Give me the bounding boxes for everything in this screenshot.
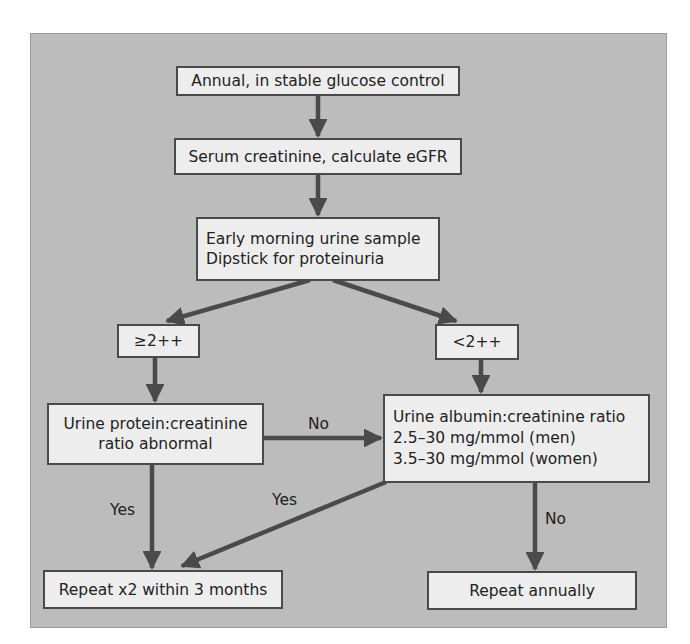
node-text: ratio abnormal (98, 434, 212, 454)
node-text: Urine protein:creatinine (63, 414, 247, 434)
node-text: Repeat annually (469, 581, 595, 601)
node-text: Early morning urine sample (206, 229, 421, 249)
arrow-urine-sample-to-ge2 (167, 280, 310, 321)
node-text: Serum creatinine, calculate eGFR (188, 147, 447, 167)
edge-label-no-pcr-to-acr: No (308, 414, 329, 434)
node-text: Repeat x2 within 3 months (59, 580, 268, 600)
node-text: ≥2++ (134, 331, 183, 351)
node-protein-creatinine-ratio: Urine protein:creatinine ratio abnormal (47, 403, 264, 465)
node-text: Urine albumin:creatinine ratio (393, 407, 625, 428)
node-text: 3.5–30 mg/mmol (women) (393, 449, 598, 470)
node-albumin-creatinine-ratio: Urine albumin:creatinine ratio 2.5–30 mg… (383, 394, 650, 483)
node-repeat-x2: Repeat x2 within 3 months (43, 570, 283, 609)
node-urine-sample: Early morning urine sample Dipstick for … (196, 217, 440, 281)
node-repeat-annually: Repeat annually (427, 571, 637, 610)
arrow-urine-sample-to-lt2 (333, 280, 456, 321)
node-dipstick-lt2: <2++ (435, 324, 519, 360)
edge-label-yes-acr-to-repeat: Yes (272, 490, 297, 510)
node-annual-check: Annual, in stable glucose control (176, 66, 460, 96)
node-text: 2.5–30 mg/mmol (men) (393, 428, 576, 449)
node-text: <2++ (453, 332, 502, 352)
node-dipstick-ge2: ≥2++ (117, 324, 200, 358)
edge-label-yes-pcr-to-repeat: Yes (110, 500, 135, 520)
edge-label-no-acr-to-annual: No (545, 509, 566, 529)
flowchart-arrows (0, 0, 690, 644)
node-serum-creatinine: Serum creatinine, calculate eGFR (174, 138, 462, 175)
node-text: Dipstick for proteinuria (206, 249, 384, 269)
node-text: Annual, in stable glucose control (191, 71, 444, 91)
